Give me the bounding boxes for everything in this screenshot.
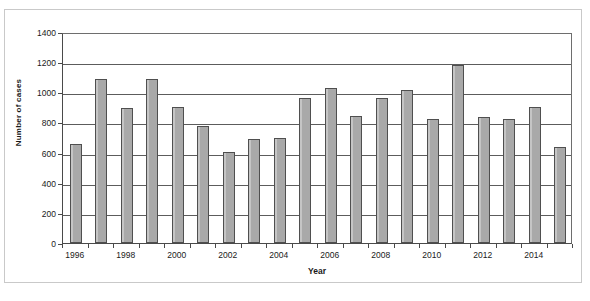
y-tick-label: 1400 — [10, 28, 56, 38]
x-tick-label: 2000 — [167, 250, 186, 260]
x-tick-mark — [343, 244, 344, 248]
bar — [121, 108, 133, 243]
y-tick-label: 1200 — [10, 58, 56, 68]
x-tick-label: 1996 — [65, 250, 84, 260]
x-tick-mark — [113, 244, 114, 248]
x-tick-mark — [215, 244, 216, 248]
x-tick-mark — [241, 244, 242, 248]
x-tick-mark — [88, 244, 89, 248]
x-tick-label: 2012 — [473, 250, 492, 260]
y-tick-mark — [58, 184, 62, 185]
x-tick-label: 2008 — [371, 250, 390, 260]
bar — [503, 119, 515, 243]
bar — [350, 116, 362, 243]
bar — [70, 144, 82, 243]
bar — [248, 139, 260, 243]
bar — [299, 98, 311, 243]
bar — [554, 147, 566, 243]
y-tick-mark — [58, 33, 62, 34]
x-tick-label: 2010 — [422, 250, 441, 260]
bar — [95, 79, 107, 243]
x-tick-label: 2014 — [524, 250, 543, 260]
x-tick-mark — [445, 244, 446, 248]
y-tick-label: 400 — [10, 179, 56, 189]
x-tick-mark — [266, 244, 267, 248]
figure-caption — [300, 291, 586, 300]
y-tick-mark — [58, 93, 62, 94]
bar — [452, 65, 464, 243]
bar — [427, 119, 439, 243]
bar — [274, 138, 286, 244]
chart-figure: Number of cases 020040060080010001200140… — [0, 0, 590, 301]
x-tick-label: 2002 — [218, 250, 237, 260]
bar — [401, 90, 413, 243]
x-tick-label: 2004 — [269, 250, 288, 260]
x-tick-mark — [368, 244, 369, 248]
x-tick-mark — [547, 244, 548, 248]
y-tick-mark — [58, 214, 62, 215]
x-tick-mark — [496, 244, 497, 248]
y-tick-mark — [58, 154, 62, 155]
x-tick-mark — [317, 244, 318, 248]
x-tick-mark — [521, 244, 522, 248]
x-tick-mark — [164, 244, 165, 248]
bar-series — [63, 34, 571, 243]
plot-area — [62, 33, 572, 244]
bar — [529, 107, 541, 243]
bar — [146, 79, 158, 243]
x-tick-mark — [139, 244, 140, 248]
x-tick-mark — [62, 244, 63, 248]
y-tick-label: 200 — [10, 209, 56, 219]
x-tick-mark — [470, 244, 471, 248]
y-tick-label: 600 — [10, 149, 56, 159]
x-tick-mark — [190, 244, 191, 248]
bar — [325, 88, 337, 243]
bar — [172, 107, 184, 243]
y-tick-label: 1000 — [10, 88, 56, 98]
bar — [478, 117, 490, 243]
x-tick-label: 1998 — [116, 250, 135, 260]
x-tick-mark — [419, 244, 420, 248]
bar — [376, 98, 388, 243]
y-tick-label: 0 — [10, 239, 56, 249]
y-tick-mark — [58, 63, 62, 64]
y-tick-label: 800 — [10, 118, 56, 128]
x-tick-mark — [292, 244, 293, 248]
bar — [223, 152, 235, 243]
x-tick-mark — [572, 244, 573, 248]
y-tick-mark — [58, 123, 62, 124]
x-tick-label: 2006 — [320, 250, 339, 260]
bar — [197, 126, 209, 243]
x-tick-mark — [394, 244, 395, 248]
x-axis-title: Year — [62, 266, 572, 276]
